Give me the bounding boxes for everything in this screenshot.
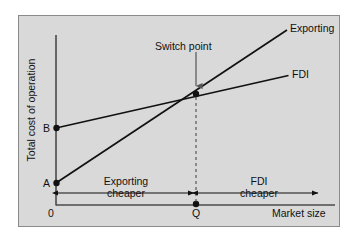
series-label-exporting: Exporting [290,22,334,34]
figure-root: Total cost of operation Market size 0 Q … [0,0,357,243]
point-b-label: B [43,122,50,134]
region-fdi-line2: cheaper [224,188,294,200]
x-axis-label: Market size [272,207,326,219]
point-a-label: A [43,177,50,189]
region-label-fdi-cheaper: FDI cheaper [224,176,294,199]
region-exporting-line2: cheaper [91,188,161,200]
region-exporting-line1: Exporting [91,176,161,188]
series-label-fdi: FDI [292,68,309,80]
origin-label: 0 [48,207,54,219]
switch-point-label: Switch point [155,40,212,52]
y-axis-label: Total cost of operation [25,45,37,175]
region-label-exporting-cheaper: Exporting cheaper [91,176,161,199]
x-tick-label-q: Q [192,207,200,219]
region-fdi-line1: FDI [224,176,294,188]
